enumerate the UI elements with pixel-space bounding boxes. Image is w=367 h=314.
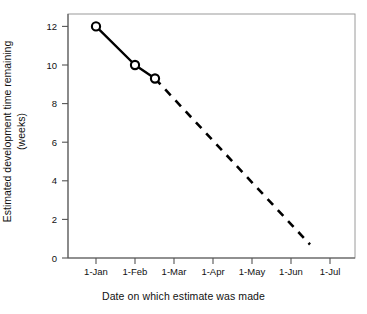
- plot-frame: [68, 14, 355, 258]
- x-tick-label-jul: 1-Jul: [320, 266, 341, 277]
- y-tick-label-0: 0: [52, 253, 57, 264]
- plot-area: 0 2 4 6 8 10 12 1-Jan 1-Feb 1-Mar 1-Apr …: [0, 0, 367, 314]
- data-point-marker: [151, 74, 159, 82]
- y-tick-label-12: 12: [46, 21, 57, 32]
- x-tick-label-feb: 1-Feb: [123, 266, 148, 277]
- y-tick-label-4: 4: [52, 175, 57, 186]
- data-point-marker: [92, 22, 100, 30]
- extrapolation-dashed-line: [155, 79, 310, 245]
- x-axis-title: Date on which estimate was made: [0, 290, 367, 303]
- x-axis-ticks: 1-Jan 1-Feb 1-Mar 1-Apr 1-May 1-Jun 1-Ju…: [84, 258, 340, 277]
- y-tick-label-6: 6: [52, 137, 57, 148]
- x-tick-label-mar: 1-Mar: [162, 266, 187, 277]
- y-axis-ticks: 0 2 4 6 8 10 12: [46, 21, 68, 264]
- chart-figure: Estimated development time remaining (we…: [0, 0, 367, 314]
- y-tick-label-2: 2: [52, 214, 57, 225]
- data-point-marker: [131, 61, 139, 69]
- y-tick-label-10: 10: [46, 60, 57, 71]
- x-tick-label-apr: 1-Apr: [201, 266, 224, 277]
- y-tick-label-8: 8: [52, 98, 57, 109]
- x-tick-label-jan: 1-Jan: [84, 266, 108, 277]
- x-tick-label-jun: 1-Jun: [279, 266, 303, 277]
- estimate-solid-line: [96, 26, 155, 78]
- x-tick-label-may: 1-May: [239, 266, 266, 277]
